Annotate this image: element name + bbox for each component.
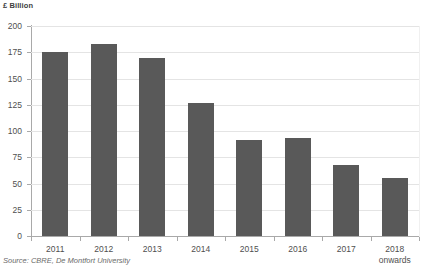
x-tick-label: 2011 bbox=[46, 244, 64, 254]
y-tick-label: 25 bbox=[0, 205, 22, 215]
x-tick-label: 2013 bbox=[143, 244, 162, 254]
bars-layer bbox=[31, 26, 419, 236]
x-tick-mark bbox=[31, 237, 32, 241]
x-tick-label: 2016 bbox=[288, 244, 307, 254]
source-note: Source: CBRE, De Montfort University bbox=[3, 256, 130, 265]
x-tick-mark bbox=[80, 237, 81, 241]
x-tick-mark bbox=[274, 237, 275, 241]
y-tick-label: 100 bbox=[0, 126, 22, 136]
bar-2011[interactable] bbox=[42, 52, 68, 236]
x-tick-label: 2014 bbox=[191, 244, 210, 254]
x-tick-sublabel: onwards bbox=[367, 255, 423, 266]
bar-chart: £ Billion 0255075100125150175200 2011201… bbox=[0, 0, 427, 270]
bar-2018-onwards[interactable] bbox=[382, 178, 408, 236]
x-tick-mark bbox=[128, 237, 129, 241]
y-tick-label: 125 bbox=[0, 100, 22, 110]
bar-2014[interactable] bbox=[188, 103, 214, 236]
bar-2012[interactable] bbox=[91, 44, 117, 236]
y-tick-label: 175 bbox=[0, 47, 22, 57]
x-tick-mark bbox=[225, 237, 226, 241]
y-tick-label: 150 bbox=[0, 74, 22, 84]
x-tick-mark bbox=[177, 237, 178, 241]
y-axis-title: £ Billion bbox=[3, 1, 33, 10]
x-tick-label: 2012 bbox=[94, 244, 113, 254]
plot-right-border bbox=[419, 26, 420, 237]
x-tick-mark bbox=[322, 237, 323, 241]
y-tick-label: 200 bbox=[0, 21, 22, 31]
y-tick-label: 75 bbox=[0, 152, 22, 162]
bar-2013[interactable] bbox=[139, 58, 165, 237]
bar-2017[interactable] bbox=[333, 165, 359, 236]
x-label-group: 2018onwards bbox=[367, 244, 423, 266]
bar-2015[interactable] bbox=[236, 140, 262, 236]
x-tick-mark bbox=[371, 237, 372, 241]
x-tick-mark bbox=[419, 237, 420, 241]
bar-2016[interactable] bbox=[285, 138, 311, 236]
y-tick-label: 0 bbox=[0, 231, 22, 241]
x-tick-label: 2018 bbox=[385, 244, 404, 254]
x-tick-label: 2017 bbox=[337, 244, 356, 254]
x-tick-label: 2015 bbox=[240, 244, 259, 254]
y-tick-label: 50 bbox=[0, 179, 22, 189]
